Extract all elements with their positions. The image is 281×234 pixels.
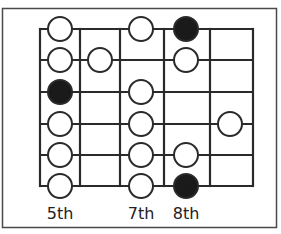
scale-note-dot [129,143,153,167]
fretboard-diagram: 5th7th8th [0,0,281,234]
fret-label: 8th [173,204,200,223]
root-note-dot [174,17,198,41]
scale-note-dot [48,112,72,136]
scale-note-dot [48,174,72,198]
scale-note-dot [129,174,153,198]
scale-note-dot [48,48,72,72]
fret-label: 7th [128,204,155,223]
scale-note-dot [129,17,153,41]
scale-note-dot [48,17,72,41]
scale-note-dot [88,48,112,72]
scale-note-dot [174,143,198,167]
scale-note-dot [218,112,242,136]
scale-note-dot [174,48,198,72]
root-note-dot [174,174,198,198]
scale-note-dot [48,143,72,167]
fret-label: 5th [47,204,74,223]
scale-note-dot [129,80,153,104]
root-note-dot [48,80,72,104]
scale-note-dot [129,112,153,136]
